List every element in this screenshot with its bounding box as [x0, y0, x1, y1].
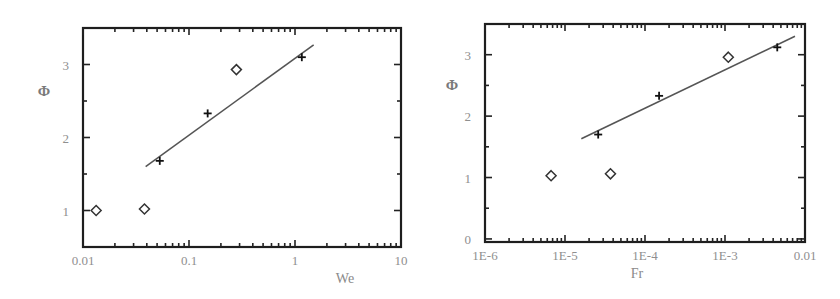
diamond-marker: [723, 52, 733, 62]
diamond-marker: [231, 65, 241, 75]
diamond-marker: [546, 171, 556, 181]
y-tick-label: 2: [63, 131, 70, 146]
diamond-marker: [91, 206, 101, 216]
x-tick-label: 1E-6: [472, 248, 498, 263]
y-tick-label: 2: [465, 109, 472, 124]
y-axis-title: Φ: [38, 83, 50, 99]
fit-line: [581, 36, 795, 139]
figure: 0.010.1110123WeΦ 1E-61E-51E-41E-30.01012…: [0, 0, 840, 299]
x-axis-title: Fr: [631, 266, 644, 281]
plus-marker: [204, 109, 212, 117]
x-tick-label: 1E-5: [552, 248, 577, 263]
chart-fr: 1E-61E-51E-41E-30.010123FrΦ: [446, 24, 817, 281]
y-tick-label: 1: [465, 171, 472, 186]
x-tick-label: 1E-3: [712, 248, 737, 263]
plus-marker: [655, 92, 663, 100]
figure-canvas: 0.010.1110123WeΦ 1E-61E-51E-41E-30.01012…: [0, 0, 840, 299]
x-tick-label: 0.01: [794, 248, 817, 263]
y-axis-title: Φ: [446, 77, 458, 93]
x-tick-label: 0.01: [72, 253, 95, 268]
x-tick-label: 1: [292, 253, 299, 268]
diamond-marker: [139, 204, 149, 214]
diamond-marker: [605, 169, 615, 179]
y-tick-label: 3: [63, 58, 70, 73]
chart-we: 0.010.1110123WeΦ: [38, 28, 408, 286]
plot-frame: [485, 24, 805, 242]
plus-marker: [298, 53, 306, 61]
x-tick-label: 0.1: [181, 253, 197, 268]
x-tick-label: 10: [395, 253, 408, 268]
x-axis-title: We: [336, 271, 354, 286]
plus-marker: [773, 43, 781, 51]
y-tick-label: 0: [465, 232, 472, 247]
plot-frame: [83, 28, 401, 247]
fit-line: [146, 45, 314, 167]
y-tick-label: 3: [465, 48, 472, 63]
x-tick-label: 1E-4: [632, 248, 658, 263]
y-tick-label: 1: [63, 204, 70, 219]
